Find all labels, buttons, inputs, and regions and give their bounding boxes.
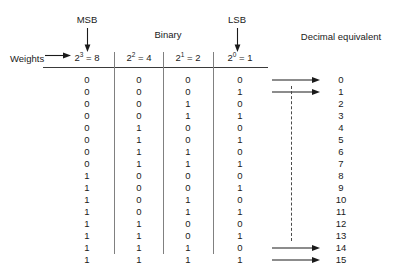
bit-cell: 1: [84, 182, 89, 193]
lsb-down-arrow-icon: [233, 28, 242, 52]
weight-header-cell-3: 20 = 1: [227, 52, 252, 63]
bit-cell: 1: [185, 194, 190, 205]
binary-group-label: Binary: [155, 29, 182, 40]
bit-cell: 1: [185, 206, 190, 217]
bit-cell: 1: [84, 170, 89, 181]
bit-cell: 1: [237, 158, 242, 169]
mapping-right-arrow-icon: [272, 75, 320, 85]
bit-cell: 1: [237, 134, 242, 145]
bit-cell: 0: [185, 182, 190, 193]
weights-label: Weights: [10, 53, 44, 64]
decimal-cell: 6: [338, 146, 343, 157]
bit-cell: 1: [136, 134, 141, 145]
bit-cell: 1: [185, 254, 190, 265]
bit-cell: 1: [185, 242, 190, 253]
bit-cell: 1: [84, 230, 89, 241]
binary-decimal-figure: MSB LSB Binary Decimal equivalent Weight…: [0, 0, 402, 277]
dashed-continuation-line: [291, 86, 292, 241]
bit-cell: 0: [136, 170, 141, 181]
bit-cell: 0: [237, 122, 242, 133]
bit-cell: 0: [136, 74, 141, 85]
bit-cell: 0: [136, 86, 141, 97]
bit-cell: 0: [237, 146, 242, 157]
weight-header-cell-2: 21 = 2: [175, 52, 200, 63]
weight-header-cell-0: 23 = 8: [74, 52, 99, 63]
decimal-cell: 2: [338, 98, 343, 109]
bit-cell: 0: [237, 218, 242, 229]
bit-cell: 0: [237, 170, 242, 181]
decimal-cell: 9: [338, 182, 343, 193]
bit-cell: 0: [185, 218, 190, 229]
bit-cell: 0: [185, 170, 190, 181]
bit-cell: 1: [136, 254, 141, 265]
bit-cell: 1: [237, 182, 242, 193]
bit-cell: 0: [185, 230, 190, 241]
decimal-cell: 11: [336, 206, 346, 217]
bit-cell: 1: [84, 242, 89, 253]
bit-cell: 1: [237, 254, 242, 265]
bit-cell: 1: [237, 206, 242, 217]
bit-cell: 1: [185, 98, 190, 109]
mapping-right-arrow-icon: [272, 87, 320, 97]
column-separator-1: [114, 52, 115, 254]
bit-cell: 1: [136, 230, 141, 241]
bit-cell: 0: [136, 110, 141, 121]
bit-cell: 0: [84, 122, 89, 133]
decimal-cell: 1: [338, 86, 343, 97]
bit-cell: 0: [84, 86, 89, 97]
bit-cell: 0: [185, 86, 190, 97]
bit-cell: 1: [84, 206, 89, 217]
mapping-right-arrow-icon: [272, 243, 320, 253]
bit-cell: 0: [237, 74, 242, 85]
decimal-cell: 14: [336, 242, 347, 253]
bit-cell: 0: [84, 158, 89, 169]
bit-cell: 1: [237, 230, 242, 241]
bit-cell: 1: [237, 110, 242, 121]
bit-cell: 0: [136, 206, 141, 217]
decimal-cell: 3: [338, 110, 343, 121]
bit-cell: 1: [136, 158, 141, 169]
decimal-cell: 7: [338, 158, 343, 169]
decimal-cell: 5: [338, 134, 343, 145]
decimal-cell: 0: [338, 74, 343, 85]
bit-cell: 1: [185, 110, 190, 121]
bit-cell: 0: [84, 134, 89, 145]
decimal-cell: 12: [336, 218, 347, 229]
bit-cell: 1: [84, 218, 89, 229]
weights-right-arrow-icon: [45, 50, 71, 61]
decimal-cell: 4: [338, 122, 343, 133]
bit-cell: 0: [237, 242, 242, 253]
bit-cell: 0: [84, 98, 89, 109]
column-separator-3: [213, 52, 214, 254]
bit-cell: 0: [84, 146, 89, 157]
bit-cell: 0: [185, 134, 190, 145]
bit-cell: 1: [136, 122, 141, 133]
decimal-cell: 10: [336, 194, 347, 205]
bit-cell: 1: [185, 146, 190, 157]
bit-cell: 0: [185, 122, 190, 133]
bit-cell: 1: [136, 218, 141, 229]
msb-down-arrow-icon: [83, 28, 92, 52]
bit-cell: 0: [237, 98, 242, 109]
bit-cell: 0: [136, 98, 141, 109]
mapping-right-arrow-icon: [272, 255, 320, 265]
decimal-cell: 8: [338, 170, 343, 181]
msb-label: MSB: [77, 14, 98, 25]
decimal-group-label: Decimal equivalent: [301, 31, 381, 42]
bit-cell: 0: [84, 74, 89, 85]
bit-cell: 1: [84, 194, 89, 205]
bit-cell: 0: [237, 194, 242, 205]
header-rule: [43, 67, 268, 68]
column-separator-2: [163, 52, 164, 254]
decimal-cell: 13: [336, 230, 347, 241]
bit-cell: 1: [136, 242, 141, 253]
bit-cell: 1: [136, 146, 141, 157]
lsb-label: LSB: [228, 14, 246, 25]
bit-cell: 0: [185, 74, 190, 85]
weight-header-cell-1: 22 = 4: [126, 52, 151, 63]
bit-cell: 1: [237, 86, 242, 97]
bit-cell: 0: [84, 110, 89, 121]
bit-cell: 1: [185, 158, 190, 169]
bit-cell: 0: [136, 182, 141, 193]
bit-cell: 1: [84, 254, 89, 265]
